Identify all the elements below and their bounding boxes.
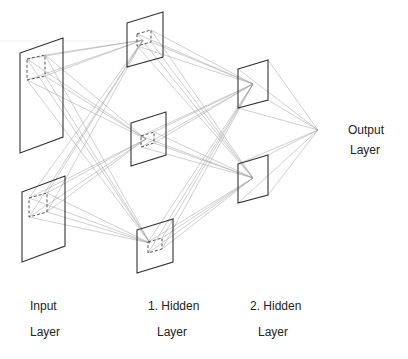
hidden2-feature-map-2 (238, 155, 268, 203)
hidden2-layer-label-line1: 2. Hidden (250, 299, 301, 313)
input-feature-map-1 (20, 38, 63, 153)
connection-hidden1-to-hidden2 (141, 147, 253, 178)
connection-input-to-hidden1 (29, 217, 150, 243)
connection-input-to-hidden1 (45, 76, 150, 243)
hidden1-layer-label-line2: Layer (157, 325, 187, 339)
hidden1-feature-map-3 (137, 219, 173, 273)
connection-input-to-hidden1 (29, 139, 146, 198)
input-receptive-field-1 (27, 55, 45, 80)
connection-hidden1-to-hidden2 (162, 178, 253, 249)
connection-input-to-hidden1 (45, 40, 143, 76)
connection-input-to-hidden1 (27, 40, 143, 80)
output-layer-label-line1: Output (348, 123, 384, 137)
connection-input-to-hidden1 (29, 40, 143, 217)
connection-hidden2-to-output (238, 69, 318, 130)
connection-hidden1-to-hidden2 (162, 84, 253, 249)
connection-hidden2-to-output (238, 108, 318, 130)
hidden1-receptive-field-2 (141, 132, 154, 147)
connection-input-to-hidden1 (29, 40, 143, 198)
connection-input-to-hidden1 (47, 212, 150, 243)
connection-hidden2-to-output (238, 130, 318, 203)
connection-hidden1-to-hidden2 (141, 84, 253, 136)
connection-input-to-hidden1 (45, 40, 143, 55)
hidden1-receptive-field-1 (137, 30, 151, 46)
output-layer-label-line2: Layer (350, 143, 380, 157)
hidden1-layer-label-line1: 1. Hidden (148, 299, 199, 313)
connection-hidden2-to-output (268, 130, 318, 155)
connection-hidden2-to-output (268, 100, 318, 130)
hidden2-layer-label-line2: Layer (258, 325, 288, 339)
connection-hidden2-to-output (268, 60, 318, 130)
input-feature-map-2 (22, 176, 65, 262)
connection-hidden1-to-hidden2 (148, 178, 253, 242)
connection-input-to-hidden1 (45, 55, 150, 243)
connection-input-to-hidden1 (27, 59, 146, 139)
connection-hidden1-to-hidden2 (137, 46, 253, 84)
neural-network-diagram (0, 0, 408, 359)
connection-hidden1-to-hidden2 (148, 178, 253, 253)
connection-hidden1-to-hidden2 (141, 84, 253, 147)
input-layer-label-line1: Input (30, 299, 57, 313)
connection-hidden2-to-output (268, 130, 318, 195)
input-layer-label-line2: Layer (30, 325, 60, 339)
connection-hidden2-to-output (238, 130, 318, 164)
hidden1-receptive-field-3 (148, 238, 162, 253)
